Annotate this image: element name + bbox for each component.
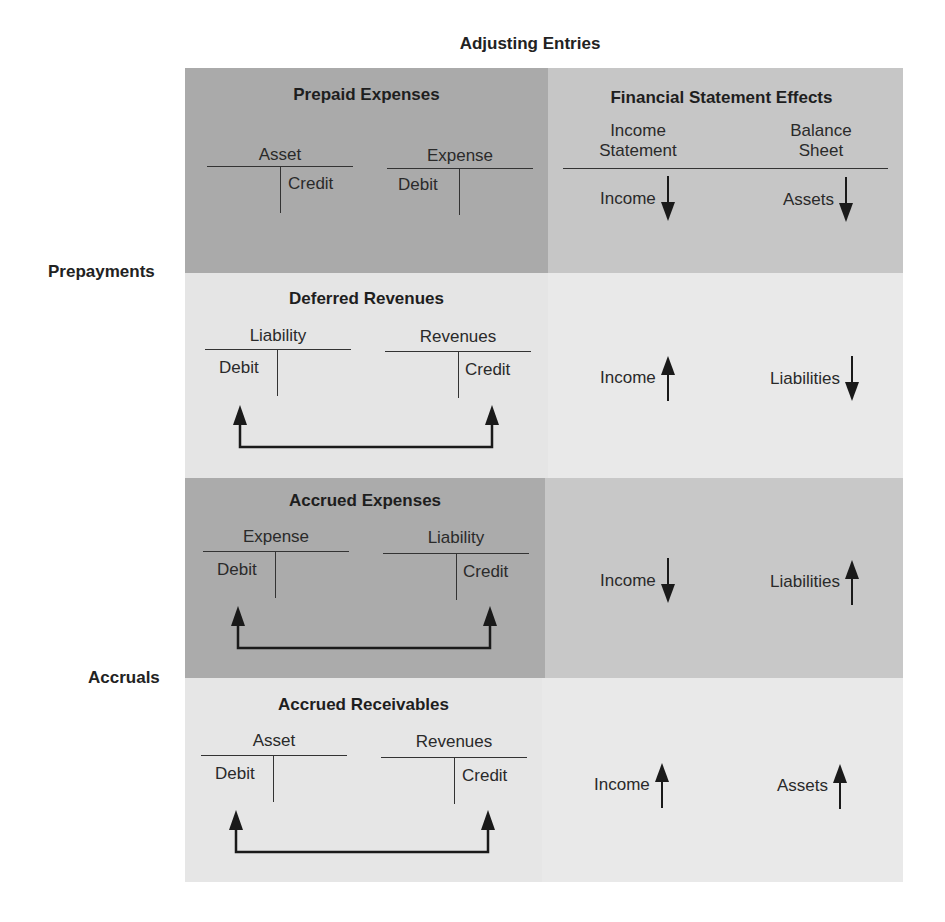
balance-effect: Assets bbox=[783, 177, 854, 223]
t-account-side-label: Debit bbox=[215, 764, 255, 784]
t-account-name: Liability bbox=[205, 326, 351, 346]
t-account-name: Expense bbox=[203, 527, 349, 547]
arrow-up-icon bbox=[832, 763, 848, 809]
t-account-name: Asset bbox=[207, 145, 353, 165]
t-account-divider bbox=[454, 757, 455, 804]
t-account-name: Revenues bbox=[381, 732, 527, 752]
income-effect: Income bbox=[594, 762, 670, 808]
debit-credit-connector-arrow-icon bbox=[230, 401, 500, 453]
panel-title: Deferred Revenues bbox=[185, 289, 548, 309]
balance-effect: Liabilities bbox=[770, 356, 860, 402]
arrow-up-icon bbox=[660, 355, 676, 401]
t-account-top-line bbox=[201, 755, 347, 756]
balance-effect: Liabilities bbox=[770, 559, 860, 605]
t-account-divider bbox=[280, 166, 281, 213]
t-account-name: Revenues bbox=[385, 327, 531, 347]
group-label-prepayments: Prepayments bbox=[48, 262, 155, 282]
effects-header-line bbox=[563, 168, 888, 169]
panel-accrued-expenses-entries: Accrued Expenses Expense Debit Liability… bbox=[185, 478, 545, 678]
income-effect: Income bbox=[600, 176, 676, 222]
arrow-down-icon bbox=[844, 356, 860, 402]
debit-credit-connector-arrow-icon bbox=[228, 602, 498, 654]
t-account-side-label: Debit bbox=[217, 560, 257, 580]
panel-accrued-expenses-effects: Income Liabilities bbox=[545, 478, 903, 678]
t-account-side-label: Credit bbox=[463, 562, 508, 582]
balance-sheet-header: Balance Sheet bbox=[771, 121, 871, 161]
t-account-name: Asset bbox=[201, 731, 347, 751]
panel-deferred-revenues-effects: Income Liabilities bbox=[548, 273, 903, 478]
arrow-up-icon bbox=[844, 559, 860, 605]
t-account-side-label: Credit bbox=[288, 174, 333, 194]
income-effect: Income bbox=[600, 558, 676, 604]
diagram-title: Adjusting Entries bbox=[0, 34, 945, 54]
t-account-side-label: Debit bbox=[219, 358, 259, 378]
t-account-divider bbox=[275, 551, 276, 598]
effects-header-title: Financial Statement Effects bbox=[540, 88, 903, 108]
panel-accrued-receivables-effects: Income Assets bbox=[542, 678, 903, 882]
t-account-divider bbox=[458, 351, 459, 398]
t-account-top-line bbox=[387, 168, 533, 169]
panel-prepaid-expenses-effects: Financial Statement Effects Income State… bbox=[548, 68, 903, 273]
arrow-up-icon bbox=[654, 762, 670, 808]
panel-accrued-receivables-entries: Accrued Receivables Asset Debit Revenues… bbox=[185, 678, 542, 882]
arrow-down-icon bbox=[660, 176, 676, 222]
t-account-divider bbox=[456, 553, 457, 600]
t-account-top-line bbox=[205, 349, 351, 350]
income-effect: Income bbox=[600, 355, 676, 401]
panel-title: Accrued Expenses bbox=[185, 491, 545, 511]
panel-deferred-revenues-entries: Deferred Revenues Liability Debit Revenu… bbox=[185, 273, 548, 478]
t-account-name: Expense bbox=[387, 146, 533, 166]
group-label-accruals: Accruals bbox=[88, 668, 160, 688]
t-account-name: Liability bbox=[383, 528, 529, 548]
arrow-down-icon bbox=[660, 558, 676, 604]
t-account-divider bbox=[459, 168, 460, 215]
t-account-side-label: Credit bbox=[462, 766, 507, 786]
t-account-divider bbox=[277, 349, 278, 396]
income-statement-header: Income Statement bbox=[588, 121, 688, 161]
t-account-divider bbox=[273, 755, 274, 802]
balance-effect: Assets bbox=[777, 763, 848, 809]
t-account-top-line bbox=[203, 551, 349, 552]
debit-credit-connector-arrow-icon bbox=[226, 806, 496, 858]
t-account-side-label: Debit bbox=[398, 175, 438, 195]
arrow-down-icon bbox=[838, 177, 854, 223]
t-account-side-label: Credit bbox=[465, 360, 510, 380]
panel-title: Prepaid Expenses bbox=[185, 85, 548, 105]
panel-title: Accrued Receivables bbox=[185, 695, 542, 715]
panel-prepaid-expenses-entries: Prepaid Expenses Asset Credit Expense De… bbox=[185, 68, 548, 273]
